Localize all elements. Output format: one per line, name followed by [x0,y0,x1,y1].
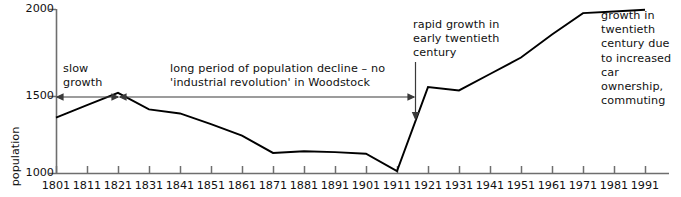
population-chart-figure: population 2000 1500 1000 1801 1811 1821… [0,0,681,197]
y-tick-label-2000: 2000 [20,3,54,15]
chart-canvas [0,0,681,197]
y-tick-labels: 2000 1500 1000 [0,0,54,197]
chart-axes [49,9,669,174]
slow-growth-arrow-head-left [57,94,63,100]
slow-growth-arrow-head-right [112,94,118,100]
annotation-car-growth: growth in twentieth century due to incre… [601,9,681,108]
annotation-rapid-growth: rapid growth in early twentieth century [413,18,500,61]
annotation-decline: long period of population decline – no '… [170,62,385,90]
decline-arrow-head-right [408,94,414,100]
y-tick-label-1500: 1500 [20,90,54,102]
annotation-slow-growth: slow growth [63,62,103,90]
x-tick-label-1991: 1991 [625,180,665,192]
population-data-line [56,10,645,171]
y-tick-label-1000: 1000 [20,167,54,179]
